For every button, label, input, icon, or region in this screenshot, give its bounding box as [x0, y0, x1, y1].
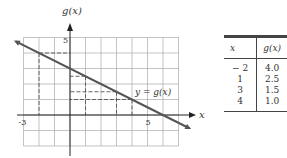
- cell-gx: 1.5: [257, 85, 287, 96]
- table-row: 12.5: [224, 74, 287, 85]
- column-header-x: x: [224, 37, 257, 59]
- cell-gx: 1.0: [257, 96, 287, 112]
- x-tick-label: -3: [19, 118, 27, 127]
- cell-gx: 2.5: [257, 74, 287, 85]
- table-row: − 24.0: [224, 59, 287, 75]
- x-axis-label: x: [199, 109, 205, 120]
- cell-x: 3: [224, 85, 257, 96]
- table-header-row: x g(x): [224, 37, 287, 59]
- values-table: x g(x) − 24.012.531.541.0: [224, 35, 287, 112]
- y-axis-label: g(x): [62, 5, 82, 16]
- column-header-gx: g(x): [257, 37, 287, 59]
- line-annotation: y = g(x): [134, 87, 172, 97]
- cell-gx: 4.0: [257, 59, 287, 75]
- cell-x: − 2: [224, 59, 257, 75]
- x-tick-label: 5: [146, 118, 151, 127]
- table-row: 41.0: [224, 96, 287, 112]
- y-tick-label: 5: [63, 36, 68, 45]
- y-axis-arrow-icon: [67, 23, 73, 31]
- cell-x: 1: [224, 74, 257, 85]
- table-row: 31.5: [224, 85, 287, 96]
- graph: g(x) x -3 5 5 y = g(x): [0, 0, 205, 158]
- cell-x: 4: [224, 96, 257, 112]
- x-axis-arrow-icon: [189, 112, 196, 118]
